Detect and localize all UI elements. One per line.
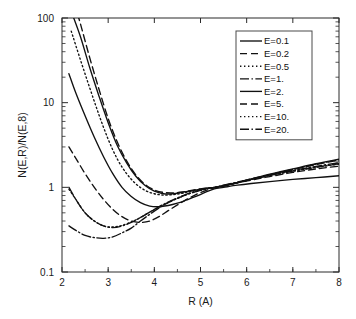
- legend-label-E2: E=2.: [264, 86, 284, 97]
- legend-label-E02: E=0.2: [264, 48, 289, 59]
- x-tick-label: 8: [336, 277, 342, 288]
- y-axis-title: N(E,R)/N(E,8): [16, 112, 28, 177]
- legend-label-E1: E=1.: [264, 73, 284, 84]
- curve-E02: [69, 147, 339, 222]
- x-tick-label: 4: [152, 277, 158, 288]
- legend-label-E10: E=10.: [264, 111, 289, 122]
- y-tick-label: 0.1: [40, 267, 54, 278]
- x-tick-label: 7: [290, 277, 296, 288]
- y-tick-label: 1: [48, 182, 54, 193]
- x-tick-label: 3: [105, 277, 111, 288]
- curve-E05: [69, 164, 339, 227]
- x-tick-label: 5: [198, 277, 204, 288]
- figure-container: 23456780.1110100R (A)N(E,R)/N(E,8) E=0.1…: [0, 0, 356, 319]
- line-chart: 23456780.1110100R (A)N(E,R)/N(E,8) E=0.1…: [0, 0, 356, 319]
- y-tick-label: 10: [43, 97, 55, 108]
- x-tick-label: 2: [59, 277, 65, 288]
- x-tick-label: 6: [244, 277, 250, 288]
- legend-label-E5: E=5.: [264, 98, 284, 109]
- legend-label-E20: E=20.: [264, 124, 289, 135]
- legend: E=0.1E=0.2E=0.5E=1.E=2.E=5.E=10.E=20.: [236, 31, 312, 140]
- legend-label-E01: E=0.1: [264, 35, 289, 46]
- curve-E20: [69, 164, 339, 228]
- legend-label-E05: E=0.5: [264, 61, 289, 72]
- y-tick-label: 100: [37, 13, 54, 24]
- x-axis-title: R (A): [188, 295, 213, 307]
